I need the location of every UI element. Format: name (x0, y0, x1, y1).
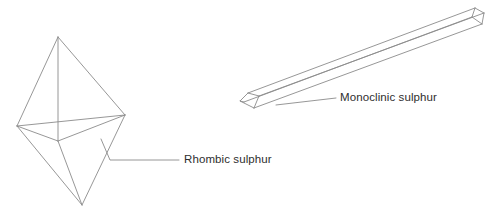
monoclinic-tip-bottom-left-lower (240, 101, 254, 108)
rhombic-edge-apex-right (58, 37, 125, 115)
rhombic-sulphur-crystal (17, 37, 125, 205)
monoclinic-edge-top-front (248, 8, 475, 93)
rhombic-edge-left-right-back (17, 115, 125, 126)
sulphur-allotropes-figure: Rhombic sulphur Monoclinic sulphur (0, 0, 493, 218)
monoclinic-tip-bottom-left-edge (248, 93, 259, 96)
monoclinic-sulphur-label: Monoclinic sulphur (340, 91, 437, 103)
diagram-canvas (0, 0, 493, 218)
rhombic-edge-apex-left (17, 37, 58, 126)
monoclinic-tip-top-right-base (472, 17, 482, 24)
rhombic-edge-center-bottom (58, 141, 82, 205)
monoclinic-tip-top-right (475, 8, 484, 13)
rhombic-edge-center-right (58, 115, 125, 141)
monoclinic-edge-bottom-front (244, 17, 472, 102)
rhombic-leader-line (101, 139, 179, 160)
rhombic-sulphur-label: Rhombic sulphur (184, 153, 272, 165)
monoclinic-leader-line (276, 98, 336, 105)
monoclinic-tip-top-right-lower (482, 13, 484, 24)
